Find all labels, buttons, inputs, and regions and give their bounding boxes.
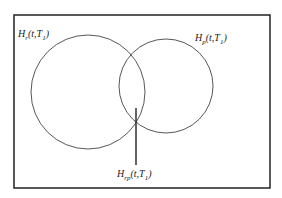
set-circle-p xyxy=(119,39,213,133)
diagram-frame xyxy=(14,15,270,188)
set-label-r: Hr(t,T1) xyxy=(18,28,49,42)
set-label-p: Hp(t,T1) xyxy=(195,32,227,46)
intersection-label: Hrp(t,T1) xyxy=(117,168,151,182)
set-circle-r xyxy=(31,35,145,149)
